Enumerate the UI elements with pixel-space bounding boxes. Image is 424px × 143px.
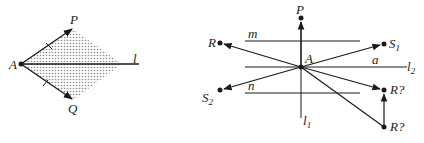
label-R-upper: R? bbox=[389, 82, 405, 97]
label-A: A bbox=[8, 57, 17, 72]
point-S1 bbox=[382, 42, 387, 47]
point-S2 bbox=[218, 88, 223, 93]
label-l1: l1 bbox=[303, 113, 311, 130]
vector-AR bbox=[224, 44, 301, 67]
point-A bbox=[299, 65, 304, 70]
point-R-lower bbox=[382, 125, 387, 130]
segment-AR-lower bbox=[301, 67, 384, 127]
label-S2: S2 bbox=[202, 90, 214, 107]
label-A: A bbox=[304, 51, 313, 66]
label-R: R bbox=[207, 35, 216, 50]
label-S1: S1 bbox=[389, 36, 400, 53]
label-l2: l2 bbox=[407, 59, 416, 76]
label-l: l bbox=[133, 51, 137, 66]
label-P: P bbox=[69, 12, 78, 27]
vector-AR-upper bbox=[301, 67, 380, 89]
label-R-lower: R? bbox=[389, 119, 405, 134]
label-P: P bbox=[295, 2, 304, 17]
label-a: a bbox=[372, 52, 379, 67]
point-R-upper bbox=[382, 88, 387, 93]
point-A bbox=[19, 62, 24, 67]
label-Q: Q bbox=[68, 101, 78, 116]
label-n: n bbox=[248, 78, 255, 93]
point-R bbox=[218, 41, 223, 46]
left-diagram: A P Q l bbox=[8, 12, 139, 116]
vector-AS2 bbox=[224, 67, 301, 89]
diagram-canvas: A P Q l P A R m n a S1 S2 bbox=[0, 0, 424, 143]
label-m: m bbox=[248, 26, 257, 41]
right-diagram: P A R m n a S1 S2 l2 l1 R? R? bbox=[202, 2, 416, 134]
